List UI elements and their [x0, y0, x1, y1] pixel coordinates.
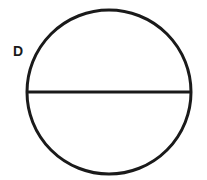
diameter-label: D: [13, 43, 23, 59]
circle-diagram: D: [0, 0, 207, 180]
